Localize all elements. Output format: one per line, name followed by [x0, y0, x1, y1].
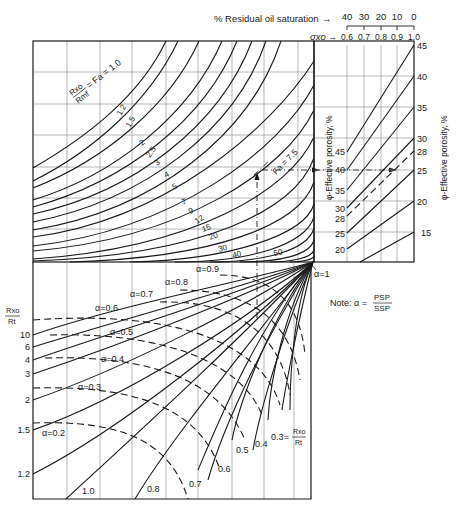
fa-example-label: Fa = 7.5 [270, 147, 299, 176]
note-num: PSP [374, 293, 390, 302]
ratio-label: 0.3 [271, 432, 284, 442]
alpha-label: α=0.9 [196, 264, 219, 274]
ratio-eq: = [284, 432, 289, 442]
alpha-label: α=0.4 [101, 354, 124, 364]
fa-label: 40 [232, 249, 243, 260]
porosity-outer-axis-label: φ-Effective porosity, % [439, 115, 449, 200]
note-text: Note: α = [330, 298, 367, 308]
porosity-tick: 28 [417, 147, 427, 157]
fa-family-label: = Fa = 1.0 [84, 57, 122, 90]
note: Note: α = PSP SSP [330, 293, 392, 313]
oil-tick: 30 [359, 11, 370, 22]
porosity-tick: 45 [417, 41, 427, 51]
alpha-one-label: α=1 [314, 269, 329, 279]
rxo-num: Rxo [6, 306, 19, 315]
porosity-tick: 30 [417, 134, 427, 144]
porosity-tick: 45 [335, 147, 345, 157]
rxo-rt-rays [33, 262, 313, 499]
ratio-label: 0.8 [147, 484, 160, 494]
ratio-labels: 1.0 0.8 0.7 0.6 0.5 0.4 0.3 = Rxo Rt [82, 428, 306, 496]
porosity-tick: 35 [417, 103, 427, 113]
residual-oil-scale: % Residual oil saturation → 40 30 20 10 … [214, 11, 417, 30]
porosity-inner-axis-label: φ-Effective porosity, % [324, 115, 334, 200]
rxo-rt-tick: 6 [25, 342, 30, 352]
rxo-num: Rxo [293, 428, 306, 435]
oil-tick: 10 [392, 11, 403, 22]
rxo-rt-tick: 2 [25, 395, 30, 405]
ratio-label: 1.0 [82, 486, 95, 496]
oil-tick: 0 [411, 11, 416, 22]
alpha-label: α=0.2 [42, 428, 65, 438]
rt-den: Rt [295, 439, 302, 446]
fa-label: 2.5 [144, 144, 158, 159]
note-den: SSP [374, 304, 390, 313]
alpha-label: α=0.5 [110, 327, 133, 337]
ratio-label: 0.6 [218, 464, 231, 474]
rxo-rt-tick: 3 [25, 369, 30, 379]
rxo-rt-axis: Rxo Rt 10 6 4 3 2 1.5 1.2 [5, 306, 30, 479]
porosity-tick: 20 [335, 245, 345, 255]
rxo-rt-tick: 1.5 [17, 425, 30, 435]
fa-label: 1.5 [124, 114, 138, 129]
fa-label: 50 [273, 247, 284, 258]
ratio-label: 0.5 [236, 445, 249, 455]
alpha-label: α=0.7 [130, 289, 153, 299]
porosity-tick: 28 [335, 214, 345, 224]
alpha-label: α=0.3 [78, 382, 101, 392]
porosity-tick: 25 [335, 229, 345, 239]
sxo-scale: σxo → 0.6 0.7 0.8 0.9 1.0 [310, 31, 420, 42]
rxo-rt-tick: 1.2 [17, 469, 30, 479]
rxo-rt-tick: 4 [25, 355, 30, 365]
porosity-tick: 30 [335, 204, 345, 214]
sxo-label: σxo [310, 31, 326, 42]
ratio-label: 0.4 [255, 439, 268, 449]
porosity-tick: 40 [335, 165, 345, 175]
porosity-tick: 35 [335, 186, 345, 196]
porosity-tick: 15 [421, 228, 431, 238]
porosity-outer-ticks: 45 40 35 30 28 25 20 15 φ-Effective poro… [417, 41, 449, 238]
porosity-tick: 20 [417, 197, 427, 207]
ratio-label: 0.7 [189, 479, 202, 489]
fa-label: 1.2 [115, 102, 129, 117]
rxo-rt-tick: 10 [20, 330, 30, 340]
porosity-tick: 25 [417, 166, 427, 176]
nomograph-chart: % Residual oil saturation → 40 30 20 10 … [0, 0, 458, 507]
porosity-inner-ticks: 45 40 35 30 28 25 20 φ-Effective porosit… [324, 115, 345, 255]
alpha-label: α=0.8 [165, 277, 188, 287]
arrow-right-icon: → [322, 13, 332, 24]
porosity-tick: 40 [417, 72, 427, 82]
fa-label: 30 [217, 243, 228, 254]
rt-den: Rt [8, 317, 16, 326]
oil-tick: 20 [376, 11, 387, 22]
alpha-label: α=0.6 [95, 303, 118, 313]
oil-tick: 40 [342, 11, 353, 22]
residual-oil-label: % Residual oil saturation [214, 13, 319, 24]
